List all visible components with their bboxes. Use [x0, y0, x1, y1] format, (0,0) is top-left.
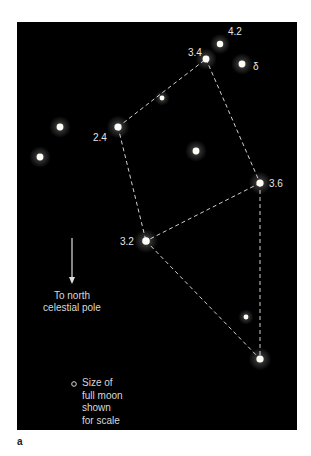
stars: [29, 34, 271, 371]
star-magnitude-label: 3.4: [188, 47, 202, 58]
constellation-line: [146, 183, 260, 241]
star: [106, 115, 129, 138]
constellation-line: [118, 127, 146, 241]
moon-size-icon: [72, 382, 77, 387]
legend-line-4: for scale: [82, 415, 123, 428]
constellation-line: [146, 241, 260, 359]
moon-scale-legend: Size of full moon shown for scale: [82, 377, 123, 427]
star-magnitude-label: 3.2: [120, 236, 134, 247]
star-magnitude-label: 3.6: [269, 178, 283, 189]
constellation-lines: [118, 59, 260, 359]
star-chart-panel: 4.23.4δ2.43.63.2 To north celestial pole…: [17, 22, 297, 430]
constellation-diagram: [17, 22, 297, 430]
star-magnitude-label: δ: [253, 61, 259, 72]
legend-line-2: full moon: [82, 390, 123, 403]
star: [49, 116, 71, 138]
star: [238, 309, 253, 324]
constellation-line: [206, 59, 260, 183]
star: [29, 146, 51, 168]
north-arrow: [69, 238, 75, 284]
star: [248, 347, 271, 370]
arrow-caption: To north celestial pole: [17, 290, 127, 314]
legend-line-1: Size of: [82, 377, 123, 390]
panel-letter: a: [17, 436, 23, 447]
star: [231, 53, 253, 75]
star: [134, 229, 158, 253]
star: [154, 90, 169, 105]
star-magnitude-label: 2.4: [93, 132, 107, 143]
arrow-caption-line-2: celestial pole: [17, 302, 127, 314]
star: [185, 140, 207, 162]
star-magnitude-label: 4.2: [228, 26, 242, 37]
arrow-caption-line-1: To north: [17, 290, 127, 302]
legend-line-3: shown: [82, 402, 123, 415]
